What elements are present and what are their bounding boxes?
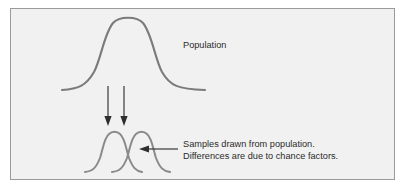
population-label: Population xyxy=(183,40,226,50)
sampling-diagram: Population Samples drawn from population… xyxy=(0,0,405,195)
caption-line-1: Samples drawn from population. xyxy=(183,139,315,149)
caption-line-2: Differences are due to chance factors. xyxy=(183,151,338,161)
figure-root: Population Samples drawn from population… xyxy=(0,0,405,195)
